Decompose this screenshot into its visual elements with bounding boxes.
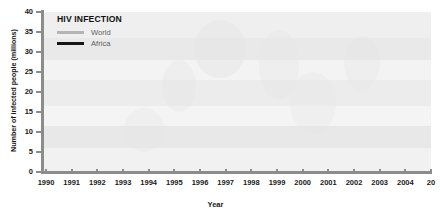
x-tick-mark (250, 169, 252, 174)
y-tick-label: 25 (11, 67, 33, 76)
y-tick-label: 0 (11, 167, 33, 176)
y-tick-label: 35 (11, 27, 33, 36)
legend-title: HIV INFECTION (57, 14, 122, 24)
x-tick-mark (71, 169, 73, 174)
x-tick-mark (148, 169, 150, 174)
plot-area: HIV INFECTION World Africa (44, 12, 431, 172)
legend-swatch-world (57, 31, 84, 34)
x-axis-line (41, 171, 431, 174)
background-watermark (290, 72, 336, 134)
legend-item-world: World (57, 27, 122, 38)
x-tick-mark (173, 169, 175, 174)
y-tick-mark (36, 31, 41, 33)
legend-swatch-africa (57, 42, 84, 45)
x-tick-mark (430, 169, 432, 174)
y-tick-mark (36, 111, 41, 113)
x-tick-mark (122, 169, 124, 174)
y-tick-label: 10 (11, 127, 33, 136)
x-tick-mark (225, 169, 227, 174)
background-watermark (344, 36, 380, 90)
y-tick-label: 40 (11, 7, 33, 16)
x-tick-mark (45, 169, 47, 174)
x-tick-mark (276, 169, 278, 174)
y-tick-mark (36, 91, 41, 93)
legend-label-africa: Africa (91, 39, 110, 48)
x-tick-mark (379, 169, 381, 174)
y-tick-mark (36, 71, 41, 73)
x-tick-label: 20 (416, 178, 440, 187)
x-tick-mark (96, 169, 98, 174)
background-band (44, 106, 431, 126)
y-tick-mark (36, 151, 41, 153)
y-tick-label: 15 (11, 107, 33, 116)
background-band (44, 148, 431, 172)
background-watermark (194, 20, 246, 78)
legend-item-africa: Africa (57, 38, 122, 49)
background-band (44, 126, 431, 148)
x-tick-mark (302, 169, 304, 174)
background-watermark (162, 60, 196, 112)
chart-legend: HIV INFECTION World Africa (57, 14, 122, 49)
y-axis-line (41, 10, 44, 174)
x-axis-title: Year (0, 200, 431, 209)
y-tick-mark (36, 171, 41, 173)
x-tick-mark (199, 169, 201, 174)
y-tick-mark (36, 131, 41, 133)
background-watermark (124, 108, 164, 152)
y-tick-label: 20 (11, 87, 33, 96)
x-tick-mark (404, 169, 406, 174)
x-tick-mark (353, 169, 355, 174)
y-tick-mark (36, 11, 41, 13)
legend-label-world: World (91, 28, 111, 37)
y-tick-label: 30 (11, 47, 33, 56)
y-tick-label: 5 (11, 147, 33, 156)
x-tick-mark (327, 169, 329, 174)
y-tick-mark (36, 51, 41, 53)
